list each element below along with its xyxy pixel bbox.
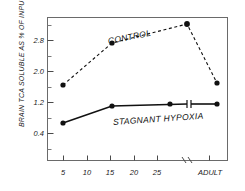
series-markers-control bbox=[60, 21, 219, 88]
y-axis-minor-ticks bbox=[48, 26, 52, 150]
x-axis-ticks bbox=[64, 156, 210, 161]
series-line-stagnant-hypoxia bbox=[63, 104, 187, 123]
chart-figure: BRAIN TCA SOLUBLE AS % OF INPUT 2.8 2.0 … bbox=[0, 0, 245, 191]
plot-frame bbox=[48, 18, 228, 161]
series-line-break-caps bbox=[187, 100, 191, 108]
plot-area bbox=[0, 0, 245, 191]
series-line-control bbox=[63, 24, 217, 85]
